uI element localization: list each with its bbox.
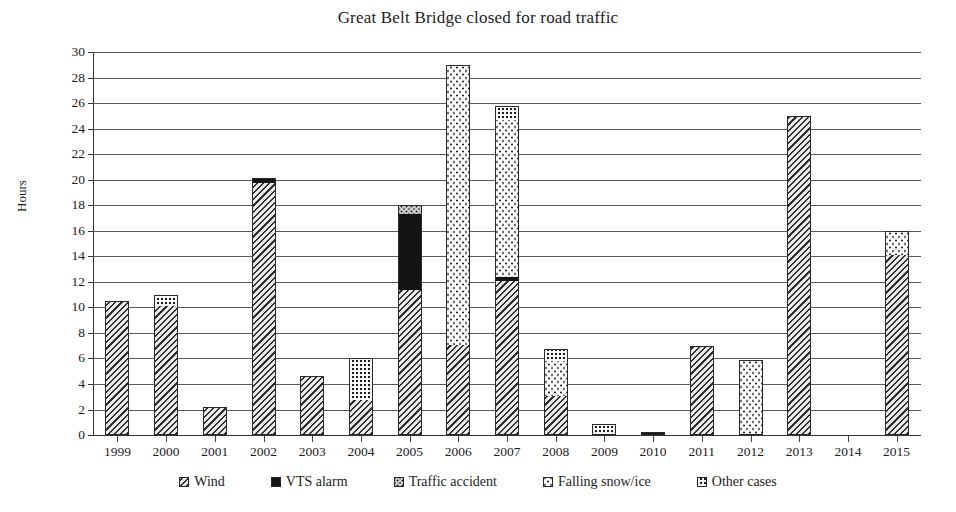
x-tick-mark — [653, 436, 654, 442]
legend-swatch-icon — [179, 477, 189, 487]
bar-2011[interactable] — [690, 346, 714, 435]
bar-2008[interactable] — [544, 349, 568, 435]
legend-label: Other cases — [712, 474, 777, 490]
y-tick-label: 26 — [59, 96, 85, 110]
bar-segment-vts-alarm — [253, 178, 275, 182]
y-tick-label: 0 — [59, 428, 85, 442]
y-tick-label: 18 — [59, 198, 85, 212]
bar-segment-falling-snow-ice — [740, 360, 762, 434]
x-tick-label-1999: 1999 — [92, 444, 142, 460]
x-tick-label-2008: 2008 — [531, 444, 581, 460]
bar-segment-wind — [447, 345, 469, 434]
x-tick-mark — [897, 436, 898, 442]
legend-label: Wind — [194, 474, 225, 490]
legend-label: VTS alarm — [286, 474, 348, 490]
legend-swatch-icon — [394, 477, 404, 487]
y-tick-label: 6 — [59, 351, 85, 365]
x-tick-mark — [166, 436, 167, 442]
bar-segment-wind — [253, 183, 275, 435]
x-tick-label-2013: 2013 — [774, 444, 824, 460]
bar-2013[interactable] — [787, 116, 811, 435]
x-tick-mark — [604, 436, 605, 442]
x-tick-mark — [702, 436, 703, 442]
y-tick-label: 30 — [59, 45, 85, 59]
bar-2010[interactable] — [641, 432, 665, 435]
y-tick-label: 10 — [59, 300, 85, 314]
x-tick-label-2000: 2000 — [141, 444, 191, 460]
x-tick-label-2003: 2003 — [287, 444, 337, 460]
bar-2015[interactable] — [885, 231, 909, 435]
bar-2004[interactable] — [349, 358, 373, 435]
chart-title: Great Belt Bridge closed for road traffi… — [0, 8, 956, 28]
bar-segment-other-cases — [545, 349, 567, 361]
bar-2006[interactable] — [446, 65, 470, 435]
legend-item-wind[interactable]: Wind — [179, 474, 225, 490]
bar-segment-other-cases — [155, 295, 177, 307]
x-tick-label-2007: 2007 — [482, 444, 532, 460]
bar-1999[interactable] — [105, 301, 129, 435]
bar-segment-other-cases — [350, 358, 372, 399]
bar-segment-traffic-accident — [399, 205, 421, 214]
y-tick-label: 16 — [59, 224, 85, 238]
y-tick-label: 8 — [59, 326, 85, 340]
x-tick-label-2001: 2001 — [190, 444, 240, 460]
bar-2012[interactable] — [739, 360, 763, 435]
bar-segment-wind — [350, 400, 372, 434]
bar-segment-falling-snow-ice — [545, 361, 567, 395]
bar-2000[interactable] — [154, 295, 178, 435]
bar-2009[interactable] — [592, 424, 616, 435]
bar-segment-wind — [301, 376, 323, 434]
legend-item-traffic-accident[interactable]: Traffic accident — [394, 474, 497, 490]
bar-segment-other-cases — [593, 424, 615, 434]
x-tick-mark — [117, 436, 118, 442]
bar-segment-vts-alarm — [496, 277, 518, 281]
bar-segment-wind — [155, 306, 177, 434]
bar-2001[interactable] — [203, 407, 227, 435]
y-tick-label: 14 — [59, 249, 85, 263]
y-tick-label: 22 — [59, 147, 85, 161]
bar-segment-falling-snow-ice — [886, 231, 908, 256]
legend-item-falling-snow-ice[interactable]: Falling snow/ice — [543, 474, 651, 490]
x-tick-label-2006: 2006 — [433, 444, 483, 460]
bar-2002[interactable] — [252, 178, 276, 435]
y-tick-label: 28 — [59, 71, 85, 85]
x-tick-mark — [507, 436, 508, 442]
x-tick-mark — [410, 436, 411, 442]
bar-2005[interactable] — [398, 205, 422, 435]
chart-container: Great Belt Bridge closed for road traffi… — [0, 0, 956, 512]
x-tick-label-2015: 2015 — [872, 444, 922, 460]
chart-legend: WindVTS alarmTraffic accidentFalling sno… — [0, 474, 956, 490]
x-tick-label-2004: 2004 — [336, 444, 386, 460]
gridline — [93, 103, 921, 104]
bar-segment-vts-alarm — [399, 214, 421, 289]
bar-segment-wind — [691, 346, 713, 434]
bar-segment-vts-alarm — [642, 432, 664, 434]
bar-segment-falling-snow-ice — [447, 65, 469, 345]
x-tick-mark — [848, 436, 849, 442]
legend-item-other-cases[interactable]: Other cases — [697, 474, 777, 490]
x-tick-mark — [215, 436, 216, 442]
bar-segment-wind — [496, 281, 518, 434]
bar-2003[interactable] — [300, 376, 324, 435]
legend-swatch-icon — [543, 477, 553, 487]
bar-segment-falling-snow-ice — [496, 120, 518, 277]
bar-segment-wind — [886, 255, 908, 434]
bar-segment-other-cases — [496, 106, 518, 120]
x-tick-label-2010: 2010 — [628, 444, 678, 460]
x-tick-label-2005: 2005 — [385, 444, 435, 460]
x-tick-label-2011: 2011 — [677, 444, 727, 460]
x-tick-label-2012: 2012 — [726, 444, 776, 460]
y-tick-label: 20 — [59, 173, 85, 187]
bar-segment-wind — [204, 407, 226, 434]
legend-item-vts-alarm[interactable]: VTS alarm — [271, 474, 348, 490]
legend-swatch-icon — [697, 477, 707, 487]
x-tick-mark — [458, 436, 459, 442]
legend-label: Traffic accident — [409, 474, 497, 490]
y-tick-label: 2 — [59, 403, 85, 417]
x-tick-mark — [361, 436, 362, 442]
legend-swatch-icon — [271, 477, 281, 487]
bar-2007[interactable] — [495, 106, 519, 435]
gridline — [93, 52, 921, 53]
plot-area — [93, 52, 921, 435]
x-tick-mark — [751, 436, 752, 442]
